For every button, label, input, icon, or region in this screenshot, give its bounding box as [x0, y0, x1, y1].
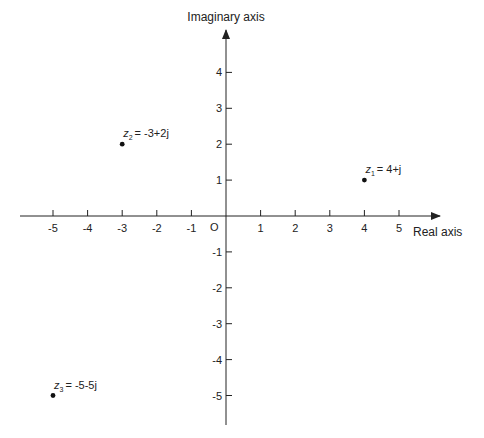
- x-tick-label: 4: [361, 222, 367, 234]
- x-tick-label: -1: [187, 222, 197, 234]
- point-z3: z3= -5-5j: [51, 379, 97, 398]
- x-tick-label: -2: [152, 222, 162, 234]
- y-tick-label: -4: [212, 354, 222, 366]
- point-z1: z1= 4+j: [362, 163, 401, 182]
- complex-plane: -5-4-3-2-112345 4321-1-2-3-4-5 Real axis…: [0, 0, 484, 438]
- y-tick-label: -1: [212, 246, 222, 258]
- point-marker: [120, 142, 125, 147]
- x-tick-label: 2: [292, 222, 298, 234]
- y-tick-label: 1: [216, 174, 222, 186]
- y-tick-label: 4: [216, 66, 222, 78]
- y-tick-label: 2: [216, 138, 222, 150]
- x-tick-label: 1: [258, 222, 264, 234]
- imaginary-axis-ticks: 4321-1-2-3-4-5: [212, 66, 232, 401]
- point-marker: [362, 178, 367, 183]
- point-label: z3= -5-5j: [53, 379, 97, 393]
- y-tick-label: -5: [212, 390, 222, 402]
- y-tick-label: 3: [216, 102, 222, 114]
- origin-label: O: [210, 221, 219, 233]
- x-tick-label: -3: [117, 222, 127, 234]
- real-axis-ticks: -5-4-3-2-112345: [48, 210, 402, 234]
- point-z2: z2= -3+2j: [120, 127, 169, 146]
- x-tick-label: -5: [48, 222, 58, 234]
- x-tick-label: 5: [396, 222, 402, 234]
- point-label: z2= -3+2j: [122, 127, 169, 141]
- imaginary-axis-label: Imaginary axis: [187, 10, 264, 24]
- x-tick-label: -4: [83, 222, 93, 234]
- real-axis-label: Real axis: [413, 225, 462, 239]
- point-marker: [51, 393, 56, 398]
- x-tick-label: 3: [327, 222, 333, 234]
- y-tick-label: -3: [212, 318, 222, 330]
- y-tick-label: -2: [212, 282, 222, 294]
- point-label: z1= 4+j: [364, 163, 401, 177]
